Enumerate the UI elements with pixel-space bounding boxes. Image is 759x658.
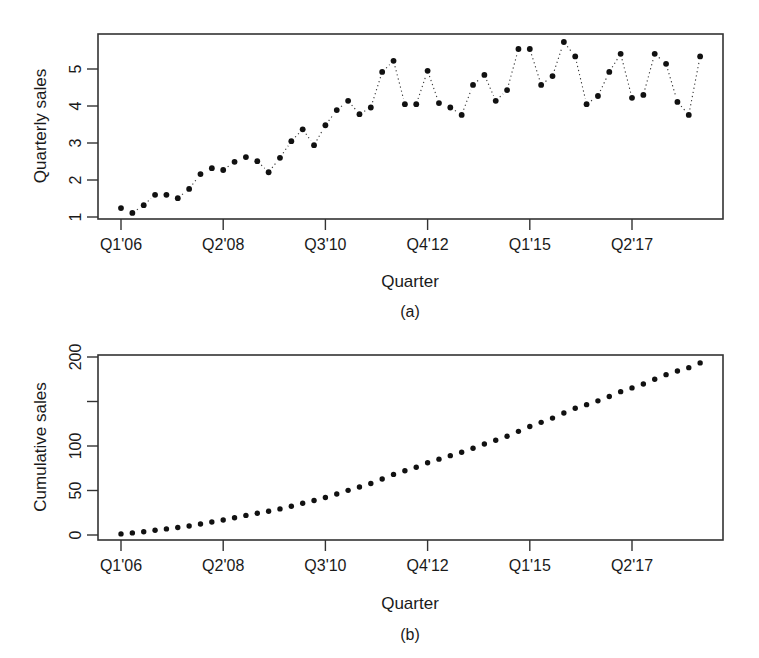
connector-segment [554,47,562,71]
data-point [175,525,180,530]
data-point [652,377,657,382]
data-point [573,406,578,411]
data-point [402,468,407,473]
data-point [663,61,669,67]
data-point [345,98,351,104]
data-point [243,513,248,518]
connector-segment [477,79,480,82]
data-point [277,506,282,511]
connector-segment [464,90,471,110]
connector-segment [306,134,311,141]
data-point [470,82,476,88]
data-point [504,434,509,439]
connector-segment [531,54,539,79]
x-tick-label: Q1'06 [100,557,142,574]
data-point [448,453,453,458]
connector-segment [283,146,288,154]
y-tick-label: 2 [67,175,84,184]
connector-segment [567,46,572,52]
data-point [640,92,646,98]
data-point [152,528,157,533]
data-point [164,192,170,198]
data-point [152,192,158,198]
connector-segment [500,94,503,97]
connector-segment [591,99,593,101]
data-point [470,446,475,451]
plot-frame [98,355,723,540]
connector-segment [272,162,277,168]
data-point [334,491,339,496]
x-axis-label: Quarter [381,272,439,291]
data-point [675,99,681,105]
data-points [118,39,703,216]
y-axis-label: Cumulative sales [31,382,50,511]
data-point [379,476,384,481]
data-point [425,460,430,465]
connector-segment [364,110,366,111]
data-point [527,424,532,429]
data-point [311,498,316,503]
data-point [198,171,204,177]
data-point [255,510,260,515]
data-point [550,415,555,420]
connector-segment [329,114,334,120]
connector-segment [352,105,356,110]
connector-segment [645,59,653,89]
data-point [345,488,350,493]
figure: 12345 Q1'06Q2'08Q3'10Q4'12Q1'15Q2'17 Qua… [0,0,759,658]
data-point [209,519,214,524]
data-point [561,410,566,415]
y-tick-label: 100 [67,433,84,460]
connector-segment [182,192,185,194]
y-tick-label: 5 [67,64,84,73]
data-point [323,122,329,128]
data-point [504,87,510,93]
data-point [436,100,442,106]
y-tick-label: 3 [67,138,84,147]
y-axis: 050100200 [67,344,98,540]
data-point [584,402,589,407]
data-point [482,441,487,446]
y-axis-label: Quarterly sales [31,69,50,183]
data-point [459,112,465,118]
data-point [697,54,703,60]
data-point [311,142,317,148]
data-point [221,517,226,522]
data-point [629,385,634,390]
panel-caption: (b) [400,626,420,643]
data-point [323,495,328,500]
data-point [538,82,544,88]
data-point [538,420,543,425]
x-tick-label: Q2'08 [202,557,244,574]
data-point [118,205,124,211]
connector-segment [395,66,404,99]
data-point [289,503,294,508]
connector-segment [690,62,699,110]
data-point [527,46,533,52]
data-point [516,429,521,434]
data-point [413,101,419,107]
data-point [629,95,635,101]
data-point [686,365,691,370]
data-point [641,381,646,386]
data-point [663,372,668,377]
connector-segment [612,58,618,67]
panel-caption: (a) [400,303,420,320]
connector-segment [372,77,380,102]
y-tick-label: 0 [67,530,84,539]
data-point [447,105,453,111]
data-point [209,165,215,171]
x-axis-label: Quarter [381,594,439,613]
connector-lines [137,46,699,210]
x-tick-label: Q2'08 [202,236,244,253]
data-point [141,202,147,208]
connector-segment [681,106,685,111]
data-point [675,368,680,373]
connector-segment [228,165,230,167]
x-tick-label: Q1'06 [100,236,142,253]
data-point [164,526,169,531]
panel-b-cumulative-sales-chart: 050100200 Q1'06Q2'08Q3'10Q4'12Q1'15Q2'17… [31,344,723,643]
data-point [243,154,249,160]
data-point [414,465,419,470]
data-point [254,158,260,164]
